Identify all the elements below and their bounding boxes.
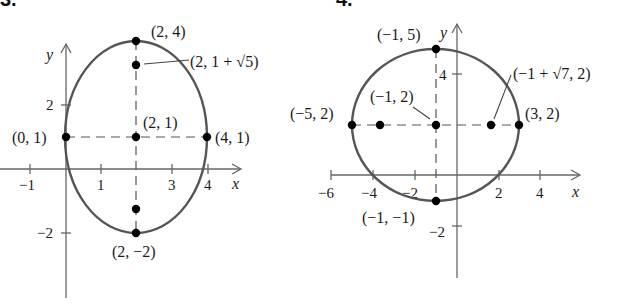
covertex-point	[432, 197, 440, 205]
x-tick-label: −1	[19, 177, 35, 193]
y-tick-label: −2	[37, 225, 53, 241]
center-point	[132, 133, 140, 141]
x-axis-label: x	[571, 183, 579, 200]
y-axis-label: y	[438, 24, 448, 42]
y-tick-label: −2	[429, 224, 445, 240]
covertex-point	[62, 133, 70, 141]
focus-point	[132, 205, 140, 213]
problem-number-3: 3.	[0, 0, 17, 10]
graph-problem-3: 3. −1 1 3 4 x y 2 −2	[0, 0, 258, 298]
vertex-point	[132, 37, 140, 45]
x-tick-label: 1	[97, 177, 105, 193]
covertex-point	[432, 45, 440, 53]
vertex-point	[348, 121, 356, 129]
figure-canvas: 3. −1 1 3 4 x y 2 −2	[0, 0, 618, 306]
focus-point	[487, 121, 495, 129]
point-label: (2, 1)	[143, 114, 178, 132]
graph-problem-4: 4. −6 −4 −2 2 4 x y 4 −2	[290, 0, 590, 278]
vertex-point	[515, 121, 523, 129]
x-tick-label: 4	[536, 185, 544, 201]
label-leader-line	[413, 107, 430, 119]
x-tick-label: 2	[495, 185, 503, 201]
covertex-point	[203, 133, 211, 141]
vertex-point	[132, 229, 140, 237]
x-tick-label: 4	[204, 177, 212, 193]
point-label: (2, −2)	[112, 243, 156, 261]
point-label: (2, 4)	[151, 23, 186, 41]
y-axis-label: y	[44, 46, 54, 64]
point-label: (−1, 2)	[370, 88, 414, 106]
point-label: (4, 1)	[215, 129, 250, 147]
point-label: (−1, −1)	[362, 209, 415, 227]
y-tick-label: 2	[46, 97, 54, 113]
center-point	[432, 121, 440, 129]
focus-point	[132, 61, 140, 69]
point-label: (−5, 2)	[290, 105, 334, 123]
point-label: (2, 1 + √5)	[190, 53, 258, 71]
problem-number-4: 4.	[336, 0, 353, 10]
x-tick-label: −4	[361, 185, 377, 201]
label-leader-line	[494, 75, 511, 119]
point-label: (3, 2)	[525, 105, 560, 123]
x-axis-label: x	[231, 175, 239, 192]
point-label: (0, 1)	[12, 129, 47, 147]
x-tick-label: 3	[168, 177, 176, 193]
x-tick-label: −6	[318, 185, 334, 201]
point-label: (−1, 5)	[377, 26, 421, 44]
y-tick-label: 4	[439, 67, 447, 83]
point-label: (−1 + √7, 2)	[513, 65, 590, 83]
focus-point	[376, 121, 384, 129]
